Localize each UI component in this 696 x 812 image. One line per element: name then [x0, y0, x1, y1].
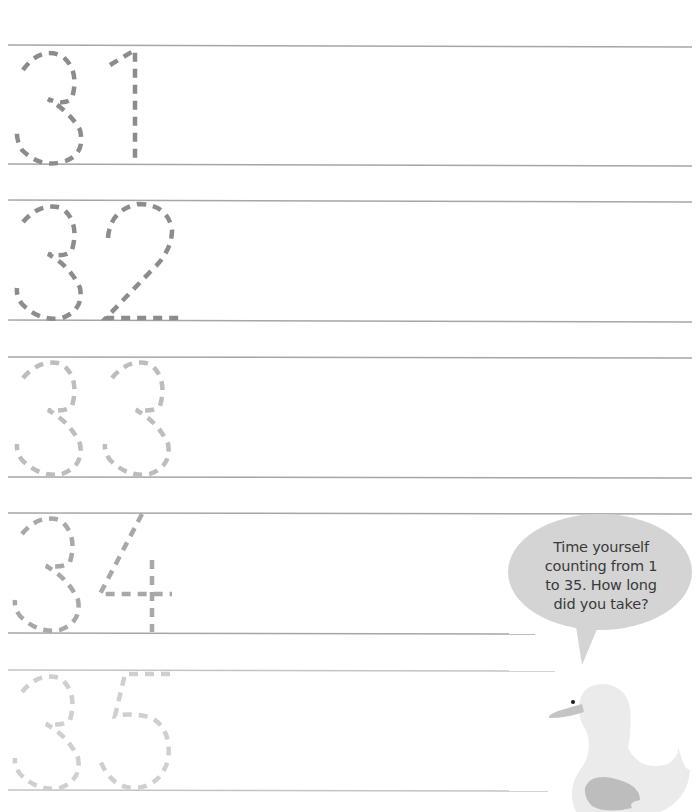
- digit-1: [110, 50, 135, 163]
- digit-2: [106, 204, 180, 318]
- traced-number-31[interactable]: [17, 50, 135, 164]
- row-4-bottom-line: [8, 633, 535, 634]
- guide-lines: [8, 45, 692, 791]
- row-2-bottom-line: [8, 320, 692, 322]
- duck-beak: [549, 704, 584, 718]
- worksheet-page: Time yourself counting from 1 to 35. How…: [0, 0, 696, 812]
- traced-number-35[interactable]: [15, 674, 170, 789]
- duck-eye: [571, 700, 575, 704]
- digit-5: [100, 674, 170, 788]
- bubble-line-2: counting from 1: [516, 557, 686, 576]
- row-4-top-line: [8, 513, 692, 514]
- traced-number-32[interactable]: [17, 204, 180, 319]
- speech-bubble-text: Time yourself counting from 1 to 35. How…: [516, 538, 686, 614]
- row-3-top-line: [8, 357, 692, 358]
- bubble-line-1: Time yourself: [516, 538, 686, 557]
- row-3-bottom-line: [8, 477, 692, 478]
- digit-3: [15, 519, 79, 631]
- digit-3: [17, 53, 81, 163]
- bubble-line-3: to 35. How long: [516, 576, 686, 595]
- digit-3: [105, 363, 169, 475]
- digit-3: [17, 363, 81, 475]
- row-1-top-line: [8, 45, 692, 47]
- traced-number-33[interactable]: [17, 363, 169, 475]
- bubble-line-4: did you take?: [516, 595, 686, 614]
- row-5-bottom-line: [8, 790, 548, 791]
- duck-icon: [549, 684, 690, 812]
- row-5-top-line: [8, 670, 555, 671]
- digit-3: [17, 207, 81, 319]
- row-1-bottom-line: [8, 164, 692, 166]
- tracing-area: [0, 0, 696, 812]
- row-2-top-line: [8, 200, 692, 202]
- digit-4: [100, 514, 172, 632]
- traced-number-34[interactable]: [15, 514, 172, 632]
- digit-3: [15, 677, 79, 789]
- bubble-tail: [575, 620, 600, 665]
